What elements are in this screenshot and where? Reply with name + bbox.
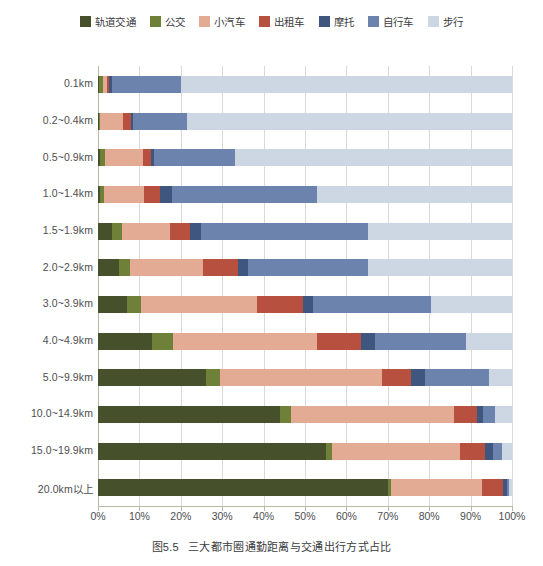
x-axis-tick-label: 20% — [170, 510, 191, 522]
bar-row[interactable] — [98, 333, 512, 350]
bar-row[interactable] — [98, 479, 512, 496]
gridline — [181, 66, 182, 506]
legend-item[interactable]: 自行车 — [368, 14, 414, 29]
legend-label: 步行 — [443, 14, 463, 29]
bar-segment[interactable] — [201, 223, 369, 240]
bar-segment[interactable] — [190, 223, 200, 240]
bar-segment[interactable] — [485, 443, 493, 460]
bar-segment[interactable] — [291, 406, 455, 423]
bar-row[interactable] — [98, 369, 512, 386]
bar-row[interactable] — [98, 113, 512, 130]
bar-segment[interactable] — [317, 333, 360, 350]
legend-label: 自行车 — [383, 14, 414, 29]
bar-segment[interactable] — [127, 296, 141, 313]
bar-segment[interactable] — [187, 113, 512, 130]
bar-segment[interactable] — [105, 149, 142, 166]
bar-row[interactable] — [98, 259, 512, 276]
bar-segment[interactable] — [206, 369, 220, 386]
legend-item[interactable]: 轨道交通 — [80, 14, 136, 29]
bar-segment[interactable] — [98, 223, 112, 240]
bar-segment[interactable] — [141, 296, 257, 313]
bar-segment[interactable] — [238, 259, 248, 276]
bar-segment[interactable] — [98, 296, 127, 313]
bar-segment[interactable] — [361, 333, 375, 350]
bar-segment[interactable] — [112, 223, 122, 240]
gridline — [264, 66, 265, 506]
y-axis-label: 10.0~14.9km — [1, 407, 93, 419]
bar-segment[interactable] — [368, 223, 512, 240]
bar-segment[interactable] — [144, 186, 161, 203]
bar-segment[interactable] — [489, 369, 512, 386]
bar-segment[interactable] — [248, 259, 368, 276]
x-axis-tick-label: 10% — [129, 510, 150, 522]
bar-segment[interactable] — [431, 296, 512, 313]
legend-item[interactable]: 步行 — [428, 14, 463, 29]
bar-segment[interactable] — [495, 406, 512, 423]
bar-segment[interactable] — [482, 479, 503, 496]
bar-segment[interactable] — [493, 443, 501, 460]
caption-number: 图5.5 — [152, 541, 180, 553]
bar-segment[interactable] — [203, 259, 238, 276]
bar-segment[interactable] — [303, 296, 313, 313]
bar-segment[interactable] — [112, 76, 181, 93]
gridline — [222, 66, 223, 506]
bar-segment[interactable] — [425, 369, 489, 386]
bar-segment[interactable] — [332, 443, 460, 460]
bar-row[interactable] — [98, 149, 512, 166]
legend-item[interactable]: 公交 — [150, 14, 185, 29]
bar-segment[interactable] — [313, 296, 431, 313]
y-axis-label: 3.0~3.9km — [1, 297, 93, 309]
bar-segment[interactable] — [98, 443, 326, 460]
bar-segment[interactable] — [98, 333, 152, 350]
bar-segment[interactable] — [460, 443, 485, 460]
bar-segment[interactable] — [502, 443, 512, 460]
bar-segment[interactable] — [411, 369, 425, 386]
bar-segment[interactable] — [152, 333, 173, 350]
bar-segment[interactable] — [173, 333, 318, 350]
bar-segment[interactable] — [104, 186, 143, 203]
bar-segment[interactable] — [130, 259, 202, 276]
bar-segment[interactable] — [98, 259, 119, 276]
bar-segment[interactable] — [172, 186, 317, 203]
y-axis-line — [98, 66, 99, 506]
bar-row[interactable] — [98, 186, 512, 203]
bar-segment[interactable] — [98, 369, 206, 386]
bar-segment[interactable] — [220, 369, 381, 386]
bar-segment[interactable] — [143, 149, 151, 166]
bar-segment[interactable] — [280, 406, 290, 423]
bar-row[interactable] — [98, 223, 512, 240]
x-axis-tick-label: 40% — [253, 510, 274, 522]
bar-segment[interactable] — [382, 369, 411, 386]
bar-segment[interactable] — [375, 333, 466, 350]
bar-segment[interactable] — [391, 479, 482, 496]
bar-segment[interactable] — [123, 113, 131, 130]
bar-segment[interactable] — [317, 186, 512, 203]
bar-segment[interactable] — [100, 113, 123, 130]
bar-segment[interactable] — [181, 76, 512, 93]
bar-segment[interactable] — [170, 223, 191, 240]
bar-row[interactable] — [98, 443, 512, 460]
bar-row[interactable] — [98, 296, 512, 313]
bar-segment[interactable] — [133, 113, 187, 130]
legend-item[interactable]: 摩托 — [319, 14, 354, 29]
bar-segment[interactable] — [509, 479, 512, 496]
bar-segment[interactable] — [98, 406, 280, 423]
bar-segment[interactable] — [235, 149, 512, 166]
bar-segment[interactable] — [466, 333, 512, 350]
legend-swatch-icon — [259, 16, 270, 27]
bar-segment[interactable] — [454, 406, 477, 423]
y-axis-label: 20.0km以上 — [1, 481, 93, 496]
bar-row[interactable] — [98, 406, 512, 423]
bar-segment[interactable] — [119, 259, 131, 276]
bar-segment[interactable] — [257, 296, 303, 313]
legend-swatch-icon — [428, 16, 439, 27]
bar-segment[interactable] — [122, 223, 170, 240]
bar-segment[interactable] — [98, 479, 388, 496]
bar-segment[interactable] — [483, 406, 495, 423]
legend-item[interactable]: 小汽车 — [199, 14, 245, 29]
bar-segment[interactable] — [160, 186, 172, 203]
bar-segment[interactable] — [368, 259, 512, 276]
bar-segment[interactable] — [154, 149, 235, 166]
bar-row[interactable] — [98, 76, 512, 93]
legend-item[interactable]: 出租车 — [259, 14, 305, 29]
